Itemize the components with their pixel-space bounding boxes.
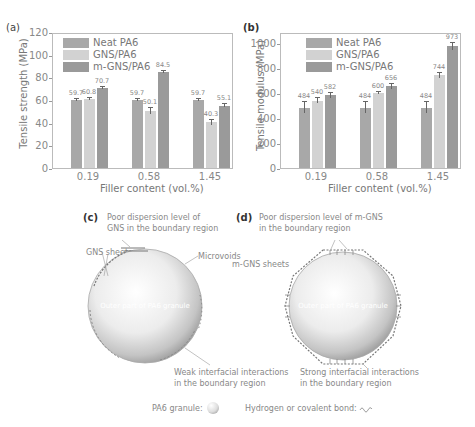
x-tick-label: 1.45 <box>195 171 225 182</box>
y-tick-label: 800 <box>250 63 276 74</box>
error-bar-cap <box>74 98 79 99</box>
panel-b-plot-area: 484540582484600656484744973Neat PA6GNS/P… <box>280 33 461 169</box>
error-bar-cap <box>450 42 455 43</box>
panel-c-annot-top-line2: GNS in the boundary region <box>107 223 218 234</box>
error-bar-cap <box>161 70 166 71</box>
legend-label: m-GNS/PA6 <box>93 61 150 72</box>
legend-swatch <box>306 50 332 60</box>
error-bar-cap <box>315 97 320 98</box>
bar-gns-pa6 <box>84 99 95 168</box>
y-tick-mark <box>49 56 52 57</box>
legend-item: GNS/PA6 <box>306 49 380 60</box>
bar-m-gns-pa6 <box>325 95 336 168</box>
bar-value-label: 84.5 <box>148 61 178 69</box>
error-bar <box>198 99 199 101</box>
error-bar-cap <box>389 83 394 84</box>
error-bar <box>426 102 427 113</box>
error-bar-cap <box>376 91 381 92</box>
error-bar-cap <box>328 92 333 93</box>
panel-d-annot-bottom-line2: in the boundary region <box>300 378 419 389</box>
panel-d-annot-top: Poor dispersion level of m-GNS in the bo… <box>259 212 383 234</box>
bar-m-gns-pa6 <box>158 72 169 168</box>
legend-swatch <box>63 38 89 48</box>
panel-d-granule-diagram: Outer part of PA6 granule <box>275 240 425 370</box>
error-bar <box>391 84 392 89</box>
error-bar-cap <box>87 97 92 98</box>
legend-label: Neat PA6 <box>336 37 381 48</box>
bar-gns-pa6 <box>145 111 156 168</box>
y-tick-mark <box>49 124 52 125</box>
y-tick-mark <box>49 33 52 34</box>
error-bar-cap <box>302 101 307 102</box>
legend-swatch <box>306 38 332 48</box>
legend-pa6-granule-label: PA6 granule: <box>152 403 203 414</box>
x-tick-label: 0.58 <box>134 171 164 182</box>
bar-value-label: 656 <box>376 74 406 82</box>
bar-m-gns-pa6 <box>219 106 230 168</box>
panel-a-ylabel: Tensile strength (MPa) <box>18 29 29 159</box>
error-bar-cap <box>100 86 105 87</box>
legend-swatch <box>306 62 332 72</box>
error-bar <box>211 120 212 125</box>
bar-gns-pa6 <box>373 93 384 168</box>
legend-item: Neat PA6 <box>63 37 138 48</box>
error-bar <box>330 93 331 98</box>
error-bar-cap <box>222 103 227 104</box>
y-tick-label: 80 <box>22 72 48 83</box>
y-tick-label: 400 <box>250 113 276 124</box>
bar-neat-pa6 <box>132 100 143 168</box>
panel-c-label: (c) <box>83 212 98 223</box>
bar-gns-pa6 <box>206 122 217 168</box>
y-tick-label: 600 <box>250 88 276 99</box>
bar-neat-pa6 <box>299 108 310 169</box>
error-bar <box>304 102 305 113</box>
bar-gns-pa6 <box>312 101 323 169</box>
bar-m-gns-pa6 <box>386 86 397 168</box>
x-tick-label: 0.19 <box>301 171 331 182</box>
error-bar <box>102 87 103 89</box>
bar-neat-pa6 <box>360 108 371 169</box>
panel-d-label: (d) <box>236 212 252 223</box>
error-bar <box>317 98 318 103</box>
panel-c-granule-diagram: Outer part of PA6 granule <box>60 240 240 370</box>
legend-item: m-GNS/PA6 <box>306 61 393 72</box>
y-tick-mark <box>49 169 52 170</box>
panel-c-annot-top: Poor dispersion level of GNS in the boun… <box>107 212 218 234</box>
granule-surface-label: Outer part of PA6 granule <box>298 302 388 310</box>
error-bar <box>89 98 90 100</box>
y-tick-label: 0 <box>250 163 276 174</box>
y-tick-label: 20 <box>22 140 48 151</box>
bar-neat-pa6 <box>421 108 432 169</box>
error-bar <box>150 108 151 114</box>
error-bar <box>76 99 77 101</box>
bar-gns-pa6 <box>434 75 445 168</box>
panel-c-annot-top-line1: Poor dispersion level of <box>107 212 218 223</box>
bar-neat-pa6 <box>71 100 82 168</box>
panel-c-annot-bottom-line2: in the boundary region <box>174 378 289 389</box>
y-tick-mark <box>277 144 280 145</box>
panel-d-annot-top-line2: in the boundary region <box>259 223 383 234</box>
y-tick-mark <box>49 146 52 147</box>
legend-swatch <box>63 62 89 72</box>
y-tick-label: 60 <box>22 95 48 106</box>
y-tick-label: 0 <box>22 163 48 174</box>
error-bar-cap <box>148 107 153 108</box>
panel-c-annot-bottom: Weak interfacial interactions in the bou… <box>174 367 289 389</box>
error-bar-cap <box>424 101 429 102</box>
panel-b-xlabel: Filler content (vol.%) <box>328 183 432 194</box>
y-tick-label: 40 <box>22 118 48 129</box>
y-tick-label: 200 <box>250 138 276 149</box>
y-tick-mark <box>49 101 52 102</box>
error-bar <box>224 104 225 106</box>
error-bar <box>163 71 164 73</box>
granule-surface-label: Outer part of PA6 granule <box>100 302 190 310</box>
panel-a-xlabel: Filler content (vol.%) <box>100 183 204 194</box>
error-bar <box>365 102 366 113</box>
error-bar <box>452 43 453 49</box>
y-tick-label: 1000 <box>250 38 276 49</box>
bar-value-label: 973 <box>437 33 467 41</box>
legend-label: m-GNS/PA6 <box>336 61 393 72</box>
bar-value-label: 59.7 <box>122 89 152 97</box>
bar-value-label: 70.7 <box>87 77 117 85</box>
error-bar <box>439 73 440 78</box>
